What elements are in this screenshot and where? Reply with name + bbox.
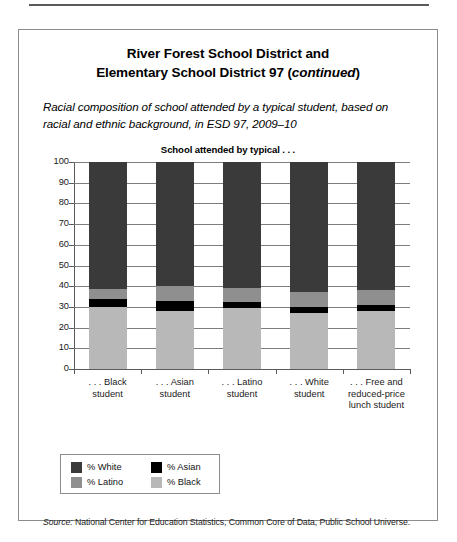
legend-label: % Asian <box>167 462 201 473</box>
x-axis-tick <box>141 369 142 374</box>
figure-title-line-2-pre: Elementary School District 97 ( <box>96 65 292 80</box>
figure-title: River Forest School District and Element… <box>19 44 437 82</box>
source-text: National Center for Education Statistics… <box>73 517 411 527</box>
source-note: Source: National Center for Education St… <box>43 516 423 528</box>
chart-plot-area: 0102030405060708090100 . . . Blackstuden… <box>19 162 439 412</box>
x-axis-tick <box>276 369 277 374</box>
chart-title: School attended by typical . . . <box>19 144 437 155</box>
bar-segment <box>290 313 328 369</box>
bar-segment <box>89 289 127 298</box>
stacked-bar <box>357 162 395 369</box>
bar-segment <box>156 301 194 311</box>
y-axis-tick-label: 90 <box>29 178 69 187</box>
x-axis-tick <box>343 369 344 374</box>
legend-swatch <box>151 477 162 488</box>
y-axis-tick-label: 60 <box>29 240 69 249</box>
bar-segment <box>223 308 261 369</box>
x-axis-tick-label-line: lunch student <box>335 400 417 412</box>
bar-segment <box>156 311 194 369</box>
x-axis-tick <box>208 369 209 374</box>
x-axis-tick-label-line: reduced-price <box>335 389 417 401</box>
chart-axes: 0102030405060708090100 . . . Blackstuden… <box>74 162 410 369</box>
y-axis-tick-label: 50 <box>29 261 69 270</box>
x-axis-tick <box>74 369 75 374</box>
y-axis-tick-label: 0 <box>29 364 69 373</box>
figure-card: River Forest School District and Element… <box>18 29 438 521</box>
bar-segment <box>223 162 261 288</box>
page-top-rule <box>29 4 429 6</box>
legend-label: % White <box>87 462 122 473</box>
bar-segment <box>290 307 328 313</box>
legend-label: % Black <box>167 477 201 488</box>
figure-page: River Forest School District and Element… <box>0 0 457 542</box>
stacked-bar <box>156 162 194 369</box>
stacked-bar <box>89 162 127 369</box>
x-axis-tick <box>410 369 411 374</box>
bar-segment <box>223 302 261 308</box>
bar-segment <box>223 288 261 301</box>
y-axis-tick-label: 80 <box>29 198 69 207</box>
figure-title-line-2: Elementary School District 97 (continued… <box>19 63 437 82</box>
legend-swatch <box>151 462 162 473</box>
bar-segment <box>357 162 395 290</box>
bar-segment <box>89 162 127 289</box>
y-axis-tick-label: 30 <box>29 302 69 311</box>
legend-swatch <box>71 477 82 488</box>
figure-subtitle: Racial composition of school attended by… <box>43 98 417 132</box>
y-axis-tick-label: 100 <box>29 157 69 166</box>
x-axis-tick-label: . . . Free andreduced-pricelunch student <box>335 377 417 412</box>
gridline <box>74 369 410 370</box>
bar-segment <box>290 162 328 292</box>
figure-title-line-1: River Forest School District and <box>19 44 437 63</box>
bar-segment <box>89 307 127 369</box>
legend-label: % Latino <box>87 477 123 488</box>
bar-segment <box>156 286 194 300</box>
bar-segment <box>290 292 328 306</box>
stacked-bar <box>290 162 328 369</box>
bar-segment <box>357 311 395 369</box>
chart-legend: % White% Asian% Latino% Black <box>60 454 220 494</box>
bar-segment <box>357 305 395 311</box>
y-axis-tick-label: 20 <box>29 323 69 332</box>
x-axis-tick-label-line: . . . Free and <box>335 377 417 389</box>
legend-swatch <box>71 462 82 473</box>
stacked-bar <box>223 162 261 369</box>
y-axis-tick-label: 70 <box>29 219 69 228</box>
bar-segment <box>357 290 395 304</box>
bar-segment <box>89 299 127 307</box>
source-label: Source: <box>43 517 73 527</box>
figure-title-line-2-post: ) <box>355 65 359 80</box>
y-axis-tick-label: 40 <box>29 281 69 290</box>
bar-segment <box>156 162 194 286</box>
figure-title-continued: continued <box>292 65 356 80</box>
y-axis-tick-label: 10 <box>29 343 69 352</box>
stacked-bar-group <box>74 162 410 369</box>
